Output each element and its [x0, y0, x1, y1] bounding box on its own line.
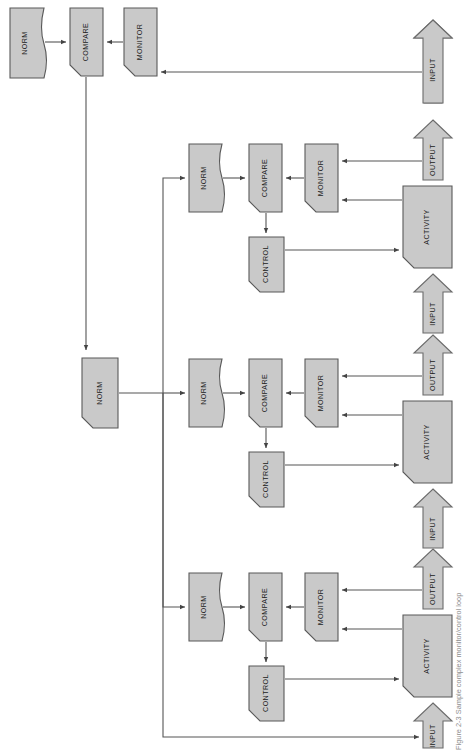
node-loop1-monitor[interactable]: MONITOR — [305, 144, 338, 212]
node-label: COMPARE — [261, 588, 269, 627]
node-label: OUTPUT — [429, 144, 437, 176]
node-master-norm[interactable]: NORM — [82, 358, 118, 428]
node-label: CONTROL — [262, 674, 270, 712]
node-label: NORM — [200, 166, 208, 189]
node-label: NORM — [200, 595, 208, 618]
node-loop2-monitor[interactable]: MONITOR — [305, 359, 338, 427]
node-loop2-activity[interactable]: ACTIVITY — [403, 401, 452, 483]
node-top-input[interactable]: INPUT — [414, 20, 452, 103]
node-top-compare[interactable]: COMPARE — [70, 8, 103, 76]
edge-feedback-bottom — [163, 393, 419, 737]
monitor-control-loop-diagram: NORM COMPARE MONITOR INPUT NORM NORM COM… — [0, 0, 465, 754]
node-label: MONITOR — [317, 375, 325, 412]
node-loop3-control[interactable]: CONTROL — [249, 666, 284, 721]
node-label: MONITOR — [317, 160, 325, 197]
node-loop3-compare[interactable]: COMPARE — [249, 573, 282, 641]
node-loop3-input[interactable]: INPUT — [414, 703, 452, 748]
node-label: NORM — [96, 381, 104, 404]
figure-caption: Figure 2-3 Sample complex monitor/contro… — [454, 593, 463, 750]
node-loop3-monitor[interactable]: MONITOR — [305, 573, 338, 641]
node-loop1-control[interactable]: CONTROL — [249, 237, 284, 292]
node-loop1-norm[interactable]: NORM — [189, 144, 225, 212]
node-label: COMPARE — [82, 23, 90, 62]
node-label: COMPARE — [261, 374, 269, 413]
node-label: ACTIVITY — [423, 424, 431, 460]
node-label: COMPARE — [261, 159, 269, 198]
node-loop2-norm[interactable]: NORM — [189, 359, 225, 427]
node-label: MONITOR — [136, 24, 144, 61]
node-label: NORM — [200, 381, 208, 404]
node-loop2-control[interactable]: CONTROL — [249, 452, 284, 507]
node-loop1-input[interactable]: INPUT — [414, 274, 452, 333]
node-loop1-activity[interactable]: ACTIVITY — [403, 186, 452, 268]
node-loop3-norm[interactable]: NORM — [189, 573, 225, 641]
node-label: ACTIVITY — [423, 209, 431, 245]
node-top-monitor[interactable]: MONITOR — [124, 8, 157, 76]
node-loop2-input[interactable]: INPUT — [414, 489, 452, 548]
node-label: OUTPUT — [429, 359, 437, 391]
node-label: INPUT — [429, 58, 437, 82]
node-loop2-compare[interactable]: COMPARE — [249, 359, 282, 427]
edge-bus-to-loop3 — [163, 393, 185, 607]
node-label: INPUT — [429, 302, 437, 326]
figure-canvas: NORM COMPARE MONITOR INPUT NORM NORM COM… — [0, 0, 465, 754]
node-top-norm[interactable]: NORM — [10, 8, 47, 78]
edge-bus-to-loop1 — [163, 178, 185, 393]
node-loop1-output[interactable]: OUTPUT — [414, 120, 452, 180]
node-loop2-output[interactable]: OUTPUT — [414, 335, 452, 395]
node-loop3-activity[interactable]: ACTIVITY — [403, 615, 452, 697]
node-label: OUTPUT — [429, 573, 437, 605]
node-label: NORM — [21, 31, 29, 54]
node-loop3-output[interactable]: OUTPUT — [414, 549, 452, 609]
node-label: CONTROL — [262, 460, 270, 498]
node-loop1-compare[interactable]: COMPARE — [249, 144, 282, 212]
node-label: INPUT — [429, 517, 437, 541]
node-label: ACTIVITY — [423, 638, 431, 674]
node-label: MONITOR — [317, 589, 325, 626]
node-label: INPUT — [429, 724, 437, 748]
node-label: CONTROL — [262, 245, 270, 283]
